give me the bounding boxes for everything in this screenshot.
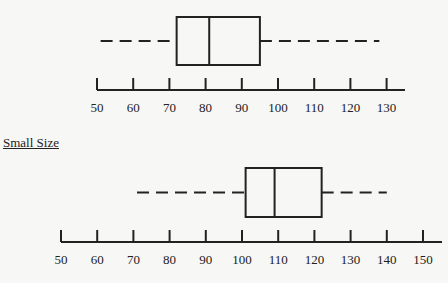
x-tick-label: 120 [305, 252, 325, 267]
x-tick-label: 100 [268, 100, 288, 115]
x-tick-label: 140 [377, 252, 397, 267]
x-tick-label: 130 [377, 100, 397, 115]
x-tick-label: 110 [305, 100, 324, 115]
x-tick-label: 60 [127, 100, 140, 115]
x-tick-label: 150 [413, 252, 433, 267]
boxplot-top: 5060708090100110120130 [91, 17, 406, 115]
x-tick-label: 80 [163, 252, 176, 267]
x-tick-label: 70 [127, 252, 140, 267]
x-tick-label: 60 [91, 252, 104, 267]
section-label-small-size: Small Size [3, 135, 59, 151]
x-tick-label: 70 [163, 100, 176, 115]
x-tick-label: 50 [91, 100, 104, 115]
boxplot-small-size: 5060708090100110120130140150 [55, 168, 443, 267]
iqr-box [177, 17, 260, 65]
iqr-box [246, 168, 322, 217]
x-tick-label: 80 [199, 100, 212, 115]
x-tick-label: 90 [235, 100, 248, 115]
boxplot-figure: 5060708090100110120130506070809010011012… [0, 0, 448, 283]
x-tick-label: 90 [199, 252, 212, 267]
x-tick-label: 110 [269, 252, 288, 267]
x-tick-label: 120 [341, 100, 361, 115]
x-tick-label: 50 [55, 252, 68, 267]
x-tick-label: 100 [232, 252, 252, 267]
x-tick-label: 130 [341, 252, 361, 267]
